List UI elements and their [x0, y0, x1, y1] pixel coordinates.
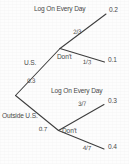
probability-us: 0.3	[27, 78, 35, 84]
branch-label-us-dont: Don't	[57, 54, 71, 61]
probability-outside-us: 0.7	[39, 126, 47, 132]
outcome-outside-logon: 0.3	[108, 98, 117, 105]
outcome-outside-dont: 0.4	[108, 144, 117, 151]
branch-label-outside-logon: Log On Every Day	[51, 88, 102, 95]
probability-outside-dont: 4/7	[83, 145, 91, 151]
branch-label-us-logon: Log On Every Day	[34, 6, 85, 13]
probability-tree-diagram: Log On Every Day 2/3 0.2 Don't 1/3 0.1 U…	[0, 0, 129, 164]
outcome-us-dont: 0.1	[108, 57, 117, 64]
branch-label-outside-us: Outside U.S.	[2, 113, 38, 120]
outcome-us-logon: 0.2	[109, 7, 118, 14]
probability-us-logon: 2/3	[73, 29, 81, 35]
probability-us-dont: 1/3	[83, 59, 91, 65]
branch-label-us: U.S.	[24, 60, 36, 67]
tree-edges	[0, 0, 129, 164]
edge-us-to-logon	[60, 14, 106, 49]
probability-outside-logon: 3/7	[78, 101, 86, 107]
branch-label-outside-dont: Don't	[62, 128, 76, 135]
